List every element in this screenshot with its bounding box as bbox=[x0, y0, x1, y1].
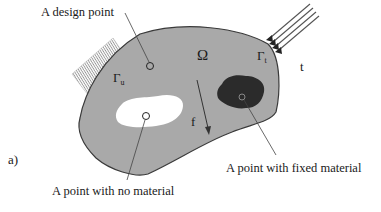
traction-label: t bbox=[300, 59, 304, 74]
fixed-material-marker bbox=[239, 94, 245, 100]
body-force-label: f bbox=[191, 114, 196, 129]
design-point-marker bbox=[147, 63, 154, 70]
no-material-marker bbox=[143, 113, 150, 120]
design-domain-diagram: A design point Ω Γu Γt t f a) A point wi… bbox=[0, 0, 381, 212]
domain-omega-symbol: Ω bbox=[197, 47, 208, 63]
fixed-material-label: A point with fixed material bbox=[226, 161, 362, 175]
gamma-u-subscript: u bbox=[121, 78, 125, 87]
traction-arrows bbox=[266, 4, 319, 54]
no-material-label: A point with no material bbox=[52, 184, 175, 198]
panel-label: a) bbox=[8, 152, 18, 167]
design-point-label: A design point bbox=[41, 5, 114, 19]
